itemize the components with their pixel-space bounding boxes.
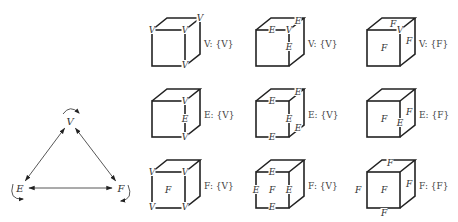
cube-grid: VVVVV: {V}EVEEV: {V}FFVFV: {F}VEVE: {V}E… bbox=[149, 13, 450, 218]
cell-label: F bbox=[405, 36, 413, 46]
cell-label: E bbox=[268, 96, 276, 106]
cell-label: F bbox=[354, 185, 362, 195]
cube-top-face bbox=[256, 160, 304, 172]
cell-label: F bbox=[386, 158, 394, 168]
cell-caption: F: {V} bbox=[308, 181, 338, 191]
cell-caption: E: {F} bbox=[419, 110, 449, 120]
cell-label: E bbox=[181, 114, 189, 124]
relation-arrow-V-E bbox=[25, 128, 64, 181]
cell-label: F bbox=[405, 107, 413, 117]
cube-top-face bbox=[152, 160, 200, 172]
cell-caption: V: {F} bbox=[418, 39, 448, 49]
cube-cell-1-2: EVEEV: {V} bbox=[256, 16, 337, 66]
topology-diagram: VEF VVVVV: {V}EVEEV: {V}FFVFV: {F}VEVE: … bbox=[0, 0, 458, 222]
cell-label: E bbox=[268, 25, 276, 35]
node-label-F: F bbox=[117, 183, 126, 194]
cell-label: E bbox=[294, 87, 302, 97]
cell-label: E bbox=[252, 185, 260, 195]
cell-label: F bbox=[380, 208, 388, 218]
cube-cell-3-1: VVFVVF: {V} bbox=[149, 160, 234, 212]
cell-label: F bbox=[389, 19, 397, 29]
cell-caption: F: {F} bbox=[419, 181, 449, 191]
cube-cell-2-1: VEVE: {V} bbox=[152, 89, 234, 142]
cell-label: E bbox=[268, 202, 276, 212]
cell-label: F bbox=[380, 185, 388, 195]
cell-caption: E: {V} bbox=[204, 110, 234, 120]
cell-label: E bbox=[396, 118, 404, 128]
node-label-E: E bbox=[15, 183, 24, 194]
cube-cell-2-3: FEFE: {F} bbox=[367, 89, 449, 137]
cube-cell-3-2: EEFEEF: {V} bbox=[252, 160, 338, 212]
cell-caption: F: {V} bbox=[204, 181, 234, 191]
cube-right-face bbox=[289, 160, 304, 208]
cell-label: V bbox=[182, 60, 190, 70]
cube-cell-1-1: VVVVV: {V} bbox=[149, 13, 234, 70]
node-label-V: V bbox=[66, 116, 75, 127]
cell-label: E bbox=[268, 167, 276, 177]
cell-label: F bbox=[268, 185, 276, 195]
cube-front-face bbox=[152, 30, 185, 66]
cell-label: F bbox=[380, 114, 388, 124]
cell-label: E bbox=[285, 42, 293, 52]
cube-cell-2-2: EEEEEE: {V} bbox=[256, 87, 338, 142]
cell-label: F bbox=[405, 179, 413, 189]
cube-top-face bbox=[152, 18, 200, 30]
cell-label: E bbox=[294, 16, 302, 26]
cell-label: V bbox=[197, 13, 205, 23]
cube-top-face bbox=[152, 89, 200, 101]
cell-label: V bbox=[182, 202, 190, 212]
cube-top-face bbox=[367, 89, 415, 101]
cell-label: E bbox=[285, 185, 293, 195]
cell-label: F bbox=[380, 43, 388, 53]
cell-label: F bbox=[164, 185, 172, 195]
cube-cell-1-3: FFVFV: {F} bbox=[367, 18, 448, 66]
vef-relation-triangle: VEF bbox=[12, 109, 130, 201]
cube-front-face bbox=[152, 101, 185, 137]
cell-label: E bbox=[285, 114, 293, 124]
cell-caption: E: {V} bbox=[308, 110, 338, 120]
cell-label: E bbox=[294, 123, 302, 133]
relation-arrow-V-F bbox=[75, 128, 115, 181]
cell-label: V bbox=[149, 202, 157, 212]
cube-cell-3-3: FFFFFF: {F} bbox=[354, 158, 449, 218]
cube-front-face bbox=[256, 30, 289, 66]
self-loop-V bbox=[63, 109, 79, 114]
cell-label: E bbox=[268, 132, 276, 142]
cell-caption: V: {V} bbox=[307, 39, 337, 49]
cell-caption: V: {V} bbox=[203, 39, 233, 49]
